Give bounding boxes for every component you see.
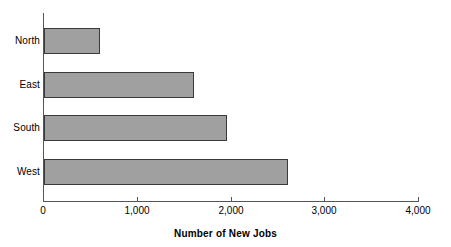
bar-south (44, 115, 227, 141)
y-tick-label-south: South (0, 122, 40, 134)
horizontal-bar-chart: North East South West 0 1,000 2,000 3,00… (0, 0, 451, 247)
y-tick-label-east: East (0, 79, 40, 91)
x-tick-label-0: 0 (13, 205, 73, 217)
bar-east (44, 72, 194, 98)
x-tick-mark-0 (43, 197, 44, 202)
x-tick-label-2000: 2,000 (201, 205, 261, 217)
x-tick-mark-3000 (324, 197, 325, 202)
bar-north (44, 28, 100, 54)
y-tick-label-west: West (0, 166, 40, 178)
x-tick-label-3000: 3,000 (294, 205, 354, 217)
x-tick-label-1000: 1,000 (107, 205, 167, 217)
x-tick-mark-2000 (231, 197, 232, 202)
x-tick-mark-4000 (418, 197, 419, 202)
x-tick-mark-1000 (137, 197, 138, 202)
bar-west (44, 159, 288, 185)
y-tick-label-north: North (0, 35, 40, 47)
x-tick-label-4000: 4,000 (388, 205, 448, 217)
x-axis-title: Number of New Jobs (0, 228, 451, 239)
